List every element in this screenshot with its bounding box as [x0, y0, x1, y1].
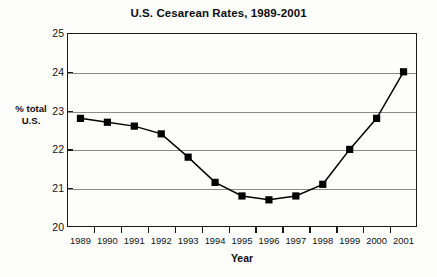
- data-point-1999: [346, 146, 353, 153]
- data-point-1991: [131, 123, 138, 130]
- data-point-1997: [292, 192, 299, 199]
- chart-figure: U.S. Cesarean Rates, 1989-2001 % total U…: [0, 0, 437, 277]
- data-point-2000: [373, 115, 380, 122]
- series-markers: [77, 68, 407, 203]
- data-point-1990: [104, 119, 111, 126]
- x-axis-label: Year: [67, 252, 417, 264]
- data-series-layer: [0, 0, 437, 277]
- data-point-1993: [185, 154, 192, 161]
- data-point-1995: [238, 192, 245, 199]
- series-line: [80, 72, 403, 200]
- data-point-1998: [319, 181, 326, 188]
- data-point-1992: [158, 130, 165, 137]
- data-point-1989: [77, 115, 84, 122]
- data-point-1994: [211, 179, 218, 186]
- data-point-2001: [400, 68, 407, 75]
- data-point-1996: [265, 196, 272, 203]
